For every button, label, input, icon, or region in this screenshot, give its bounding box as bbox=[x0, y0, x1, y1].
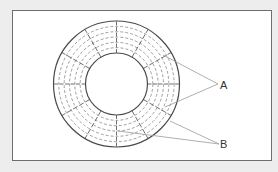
sector-line bbox=[85, 29, 101, 57]
disk-inner-hole bbox=[86, 53, 148, 115]
leader-line-a bbox=[163, 55, 218, 84]
sector-line bbox=[143, 100, 171, 116]
sector-line bbox=[143, 53, 171, 69]
sector-line bbox=[62, 53, 90, 69]
sector-line bbox=[132, 29, 148, 57]
leader-line-b bbox=[118, 131, 219, 144]
disk-diagram bbox=[0, 0, 278, 172]
sector-line bbox=[85, 111, 101, 139]
label-b-sectors: B bbox=[220, 138, 227, 150]
sector-line bbox=[62, 100, 90, 116]
label-a-tracks: A bbox=[220, 79, 227, 91]
